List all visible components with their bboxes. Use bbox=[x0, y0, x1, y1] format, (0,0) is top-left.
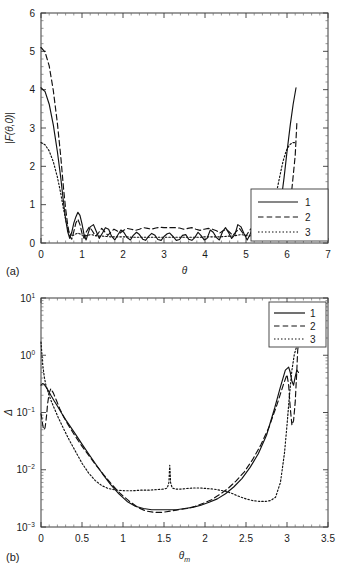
panel-b-xticklabel: 3.5 bbox=[321, 533, 335, 544]
panel-b-tag: (b) bbox=[6, 551, 19, 563]
panel-b-xticklabel: 3 bbox=[284, 533, 290, 544]
panel-b-xaxis-label: θm bbox=[179, 550, 190, 563]
panel-a-svg: 012345670123456θ|F(θ,0)|123(a) bbox=[0, 0, 347, 284]
panel-a-yticklabel: 2 bbox=[29, 161, 35, 172]
panel-a-yticklabel: 5 bbox=[29, 46, 35, 57]
panel-a-yticklabel: 0 bbox=[29, 238, 35, 249]
panel-b-xticklabel: 2.5 bbox=[239, 533, 253, 544]
panel-b-yticklabel: 100 bbox=[20, 349, 35, 361]
panel-a-xticklabel: 5 bbox=[243, 249, 249, 260]
panel-a-yticklabel: 6 bbox=[29, 8, 35, 19]
panel-a-yticklabel: 1 bbox=[29, 199, 35, 210]
panel-a-tag: (a) bbox=[6, 265, 19, 277]
panel-b-yticklabel: 10−1 bbox=[16, 406, 35, 418]
panel-b-yaxis-label: Δ bbox=[3, 409, 14, 417]
panel-b-yticklabel: 10−3 bbox=[16, 521, 35, 533]
panel-a-yticklabel: 3 bbox=[29, 123, 35, 134]
panel-b-yticklabel: 10−2 bbox=[16, 463, 35, 475]
panel-a-xticklabel: 1 bbox=[79, 249, 85, 260]
panel-b-curve-2 bbox=[41, 344, 298, 513]
panel-b-xticklabel: 0 bbox=[38, 533, 44, 544]
panel-b-legend-box bbox=[269, 302, 326, 347]
panel-a-legend-label-2: 2 bbox=[305, 212, 311, 223]
panel-a-yticklabel: 4 bbox=[29, 84, 35, 95]
panel-a-xticklabel: 3 bbox=[161, 249, 167, 260]
panel-a-legend-label-3: 3 bbox=[305, 227, 311, 238]
panel-a-xaxis-label: θ bbox=[182, 265, 188, 276]
panel-b-plot-area: 00.511.522.533.510−310−210−1100101θmΔ123… bbox=[3, 292, 335, 563]
panel-a: 012345670123456θ|F(θ,0)|123(a) bbox=[0, 0, 347, 284]
panel-b-xticklabel: 0.5 bbox=[75, 533, 89, 544]
panel-a-xticklabel: 2 bbox=[120, 249, 126, 260]
panel-b-svg: 00.511.522.533.510−310−210−1100101θmΔ123… bbox=[0, 284, 347, 568]
panel-b-xticklabel: 1.5 bbox=[157, 533, 171, 544]
panel-a-plot-area: 012345670123456θ|F(θ,0)|123(a) bbox=[4, 8, 331, 277]
panel-a-xticklabel: 4 bbox=[202, 249, 208, 260]
panel-b-curve-1 bbox=[41, 367, 298, 510]
panel-b: 00.511.522.533.510−310−210−1100101θmΔ123… bbox=[0, 284, 347, 568]
panel-a-xticklabel: 6 bbox=[284, 249, 290, 260]
panel-a-legend-label-1: 1 bbox=[305, 197, 311, 208]
panel-a-xticklabel: 0 bbox=[38, 249, 44, 260]
panel-a-yaxis-label: |F(θ,0)| bbox=[4, 112, 15, 144]
panel-b-xticklabel: 1 bbox=[120, 533, 126, 544]
panel-a-xticklabel: 7 bbox=[325, 249, 331, 260]
panel-b-legend-label-2: 2 bbox=[310, 321, 316, 332]
panel-b-curve-3 bbox=[41, 342, 298, 501]
panel-b-legend-label-1: 1 bbox=[310, 308, 316, 319]
figure-container: 012345670123456θ|F(θ,0)|123(a) 00.511.52… bbox=[0, 0, 347, 568]
panel-a-legend-box bbox=[251, 189, 328, 241]
panel-b-xticklabel: 2 bbox=[202, 533, 208, 544]
panel-b-legend-label-3: 3 bbox=[310, 334, 316, 345]
panel-b-yticklabel: 101 bbox=[20, 292, 35, 304]
